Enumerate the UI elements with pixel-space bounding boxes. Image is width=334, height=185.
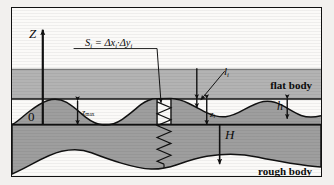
formula-dx: = Δx [92,37,115,48]
diagram-canvas [12,8,321,176]
zmax-subscript: max [85,111,94,117]
h-dimension-label: h [277,100,283,112]
zi-subscript: i [214,113,216,119]
z-axis-label: Z [29,27,36,40]
rough-surface-asperities-right [171,99,321,125]
flat-body-label: flat body [270,80,312,91]
formula-dy: ·Δy [117,37,130,48]
li-label: li [224,66,229,79]
li-subscript: i [227,71,229,78]
origin-label: 0 [28,110,35,123]
area-formula-label: Si = Δxi·Δyi [85,38,132,49]
figure-frame: Z 0 Si = Δxi·Δyi li zmax zi h H flat bod… [11,7,322,177]
zmax-label: zmax [82,108,94,118]
formula-dy-subscript: i [131,42,133,49]
figure-container: Z 0 Si = Δxi·Δyi li zmax zi h H flat bod… [0,0,334,185]
zi-label: zi [210,110,215,120]
H-dimension-label: H [225,128,234,141]
rough-body-label: rough body [258,166,312,177]
